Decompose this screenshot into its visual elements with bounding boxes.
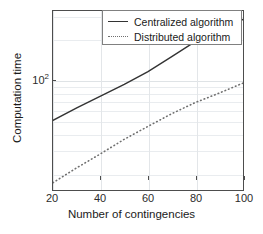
legend-label-distributed: Distributed algorithm (134, 31, 230, 43)
x-axis-title: Number of contingencies (0, 208, 263, 220)
x-tick-label: 60 (142, 192, 154, 204)
x-axis-tick (148, 176, 149, 180)
y-axis-tick (52, 80, 56, 81)
x-axis-tick (52, 176, 53, 180)
series-line-distributed (53, 83, 243, 183)
y-axis-title: Computation time (11, 43, 23, 153)
legend-entry-distributed: Distributed algorithm (107, 29, 237, 44)
legend-entry-centralized: Centralized algorithm (107, 14, 237, 29)
x-axis-tick (196, 176, 197, 180)
x-tick-label: 20 (46, 192, 58, 204)
legend-label-centralized: Centralized algorithm (134, 16, 233, 28)
solid-line-swatch-icon (107, 17, 129, 27)
dotted-line-swatch-icon (107, 32, 129, 42)
y-tick-exponent: 2 (45, 72, 49, 81)
x-axis-tick (100, 176, 101, 180)
y-tick-label-10e2: 102 (32, 72, 49, 86)
figure: 20406080100 102 Number of contingencies … (0, 0, 263, 234)
legend: Centralized algorithm Distributed algori… (102, 10, 242, 45)
x-tick-label: 100 (235, 192, 253, 204)
x-tick-label: 80 (190, 192, 202, 204)
x-axis-tick (244, 176, 245, 180)
y-tick-base: 10 (32, 74, 44, 86)
x-tick-label: 40 (94, 192, 106, 204)
